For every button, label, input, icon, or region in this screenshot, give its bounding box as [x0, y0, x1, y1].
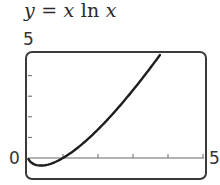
viewing-window-frame — [26, 52, 206, 179]
x-axis-ticks — [63, 154, 203, 158]
y-axis-ticks — [28, 76, 32, 138]
curve-x-ln-x — [28, 55, 160, 166]
plot-area — [0, 0, 220, 185]
